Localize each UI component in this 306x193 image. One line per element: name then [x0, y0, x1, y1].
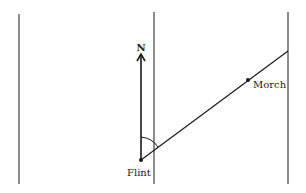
morch-label: Morch	[253, 79, 287, 90]
north-label: N	[136, 42, 145, 53]
bearing-angle-arc	[141, 137, 158, 147]
bearing-line	[141, 51, 288, 160]
north-arrow-icon	[137, 54, 145, 160]
flint-point	[139, 158, 143, 162]
morch-point	[246, 78, 250, 82]
flint-label: Flint	[127, 167, 151, 178]
bearing-diagram: N Flint Morch	[0, 0, 306, 193]
